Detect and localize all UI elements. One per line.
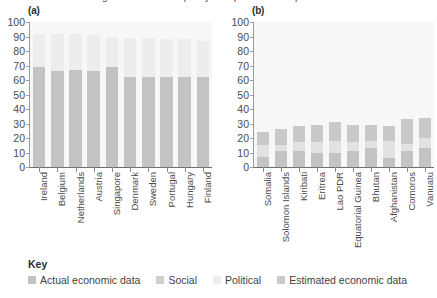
bar-a-5[interactable] [124,22,137,167]
legend-swatch-0 [28,276,36,284]
y-tick-label-b-70: 70 [237,60,249,71]
bar-segment-b-3-0 [311,153,324,168]
y-tick-a-60 [26,80,30,81]
bar-segment-a-3-1 [87,35,100,71]
y-tick-b-0 [250,167,254,168]
bar-b-7[interactable] [383,22,396,167]
x-tick-label-b-5: Equatorial Guinea [353,172,363,248]
y-tick-label-a-80: 80 [13,46,25,57]
bar-segment-a-1-0 [51,71,64,167]
y-tick-label-b-100: 100 [231,17,249,28]
bar-b-3[interactable] [311,22,324,167]
bar-segment-b-7-1 [383,141,396,158]
bar-a-4[interactable] [106,22,119,167]
bar-segment-a-7-1 [160,39,173,77]
legend-label-3: Estimated economic data [289,274,407,286]
bar-b-8[interactable] [401,22,414,167]
bar-b-1[interactable] [275,22,288,167]
bar-segment-b-0-1 [257,145,270,157]
bar-b-5[interactable] [347,22,360,167]
bar-segment-b-9-0 [419,148,432,167]
y-tick-label-a-60: 60 [13,75,25,86]
bar-a-9[interactable] [197,22,210,167]
bar-b-4[interactable] [329,22,342,167]
legend-item-3[interactable]: Estimated economic data [277,274,407,286]
legend-swatch-1 [156,276,164,284]
bar-a-7[interactable] [160,22,173,167]
bar-a-1[interactable] [51,22,64,167]
bar-a-6[interactable] [142,22,155,167]
bar-b-0[interactable] [257,22,270,167]
legend-items: Actual economic dataSocialPoliticalEstim… [28,274,428,286]
bar-b-6[interactable] [365,22,378,167]
y-tick-a-70 [26,66,30,67]
bar-b-9[interactable] [419,22,432,167]
x-tick-label-b-6: Bhutan [371,172,381,202]
bar-segment-a-2-0 [69,70,82,167]
legend-item-0[interactable]: Actual economic data [28,274,140,286]
bar-segment-a-7-0 [160,77,173,167]
bar-segment-a-0-0 [33,67,46,167]
bar-segment-b-0-0 [257,157,270,167]
y-tick-label-a-0: 0 [19,162,25,173]
y-tick-label-b-90: 90 [237,31,249,42]
panel-label-a: (a) [28,5,40,16]
bar-segment-b-1-2 [275,129,288,145]
x-tick-label-b-7: Afghanistan [389,172,399,222]
x-tick-label-a-5: Denmark [130,172,140,211]
bar-segment-b-1-1 [275,145,288,151]
bar-a-3[interactable] [87,22,100,167]
x-tick-label-a-8: Hungary [185,172,195,208]
legend-title: Key [28,258,428,270]
y-tick-a-0 [26,167,30,168]
y-tick-b-90 [250,37,254,38]
plot-area-b: 0102030405060708090100 [254,22,434,167]
bar-a-8[interactable] [178,22,191,167]
bar-segment-b-8-0 [401,151,414,167]
legend: Key Actual economic dataSocialPoliticalE… [28,258,428,286]
y-tick-label-a-50: 50 [13,89,25,100]
bar-a-0[interactable] [33,22,46,167]
legend-item-2[interactable]: Political [213,274,261,286]
y-tick-b-30 [250,124,254,125]
bar-a-2[interactable] [69,22,82,167]
y-tick-b-20 [250,138,254,139]
y-tick-label-b-10: 10 [237,147,249,158]
x-tick-label-b-1: Solomon Islands [281,172,291,242]
x-tick-label-a-0: Ireland [39,172,49,201]
y-tick-label-b-60: 60 [237,75,249,86]
bar-segment-b-2-2 [293,126,306,142]
bar-segment-a-2-1 [69,34,82,70]
legend-item-1[interactable]: Social [156,274,197,286]
y-tick-a-10 [26,153,30,154]
y-tick-label-b-30: 30 [237,118,249,129]
legend-swatch-2 [213,276,221,284]
bar-segment-b-6-1 [365,141,378,148]
y-tick-a-90 [26,37,30,38]
y-tick-a-30 [26,124,30,125]
x-tick-label-a-3: Austria [94,172,104,202]
y-tick-label-b-40: 40 [237,104,249,115]
plot-area-a: 0102030405060708090100 [30,22,212,167]
y-tick-a-20 [26,138,30,139]
bar-segment-a-6-0 [142,77,155,167]
bar-segment-b-4-2 [329,122,342,141]
bar-segment-b-7-2 [383,126,396,141]
bar-b-2[interactable] [293,22,306,167]
x-tick-label-b-3: Eritrea [317,172,327,200]
bar-segment-b-5-1 [347,142,360,151]
y-tick-label-a-100: 100 [7,17,25,28]
x-tick-label-a-1: Belgium [57,172,67,206]
bar-segment-b-3-2 [311,125,324,142]
x-tick-label-b-0: Somalia [263,172,273,206]
bar-segment-a-9-1 [197,41,210,77]
y-tick-label-b-50: 50 [237,89,249,100]
bar-segment-b-2-1 [293,142,306,151]
bar-segment-b-4-0 [329,153,342,168]
x-tick-labels-b: SomaliaSolomon IslandsKiribatiEritreaLao… [254,172,434,238]
x-tick-label-b-2: Kiribati [299,172,309,201]
x-tick-label-a-7: Portugal [167,172,177,207]
bar-segment-b-4-1 [329,141,342,153]
y-tick-a-40 [26,109,30,110]
bar-segment-a-8-0 [178,77,191,167]
